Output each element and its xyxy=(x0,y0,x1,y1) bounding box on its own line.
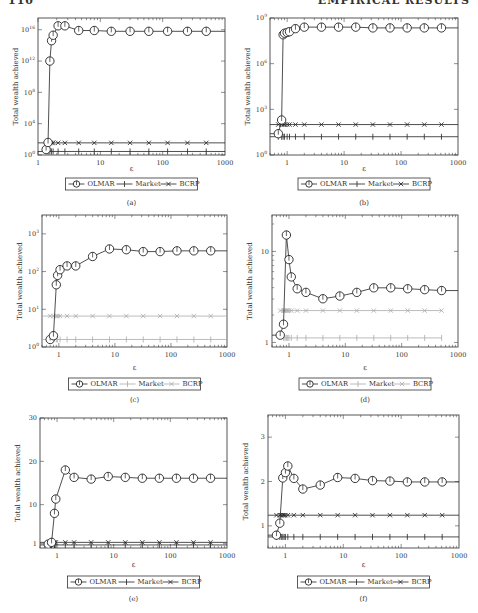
svg-text:2: 2 xyxy=(261,478,265,486)
x-tick-label: 1 xyxy=(55,552,59,560)
x-axis-label: ε xyxy=(362,561,366,569)
series-bcrp xyxy=(42,314,227,318)
y-tick-label: 2 xyxy=(261,478,265,486)
x-tick-label: 1000 xyxy=(219,351,236,359)
series-olmar xyxy=(270,23,458,138)
svg-text:109: 109 xyxy=(256,13,267,22)
x-tick-label: 1000 xyxy=(217,159,234,167)
panel-caption: (d) xyxy=(360,396,370,404)
plot-frame xyxy=(40,418,227,548)
x-axis-label: ε xyxy=(130,165,134,173)
legend: OLMARMarketBCRP xyxy=(68,576,202,588)
series-bcrp xyxy=(40,540,227,544)
y-tick-label: 1012 xyxy=(21,56,35,65)
y-axis-label: Total wealth achieved xyxy=(244,47,252,125)
series-olmar xyxy=(42,22,225,154)
svg-text:100: 100 xyxy=(28,342,39,351)
plot-area xyxy=(268,462,459,540)
svg-text:Market: Market xyxy=(368,180,393,188)
y-tick-label: 102 xyxy=(28,267,39,276)
x-tick-label: 10 xyxy=(339,552,347,560)
x-axis: 1101001000 xyxy=(40,418,235,560)
chart-panel-d: 1101001000110Total wealth achievedεOLMAR… xyxy=(246,215,466,404)
x-tick-label: 1 xyxy=(36,159,40,167)
legend: OLMARMarketBCRP xyxy=(298,178,432,190)
chart-panel-a: 110100100010010410810121016Total wealth … xyxy=(12,18,233,207)
svg-text:100: 100 xyxy=(24,150,35,159)
legend-item-olmar: OLMAR xyxy=(69,180,116,188)
series-market xyxy=(42,336,227,342)
svg-text:106: 106 xyxy=(256,59,267,68)
series-market xyxy=(284,335,442,341)
svg-text:30: 30 xyxy=(29,414,37,422)
x-axis: 1101001000 xyxy=(270,18,466,167)
svg-text:Market: Market xyxy=(368,578,393,586)
svg-text:OLMAR: OLMAR xyxy=(320,180,348,188)
x-tick-label: 1 xyxy=(57,351,61,359)
svg-text:Market: Market xyxy=(139,380,164,388)
svg-text:Market: Market xyxy=(138,578,163,586)
svg-text:OLMAR: OLMAR xyxy=(90,578,118,586)
series-bcrp xyxy=(268,513,459,517)
y-tick-label: 100 xyxy=(28,342,39,351)
series-market xyxy=(270,134,458,140)
chart-panel-c: 1101001000100101102103Total wealth achie… xyxy=(16,215,235,404)
svg-text:1: 1 xyxy=(265,339,269,347)
plot-area xyxy=(272,231,458,341)
chart-panel-f: 1101001000123Total wealth achievedεOLMAR… xyxy=(242,415,467,603)
series-market xyxy=(38,148,225,154)
panel-caption: (b) xyxy=(359,199,369,207)
y-axis-label: Total wealth achieved xyxy=(16,242,24,320)
x-tick-label: 10 xyxy=(341,351,349,359)
series-olmar xyxy=(44,466,227,549)
legend: OLMARMarketBCRP xyxy=(69,378,203,390)
y-tick-label: 1 xyxy=(265,339,269,347)
svg-text:BCRP: BCRP xyxy=(413,380,433,388)
y-tick-label: 20 xyxy=(29,458,37,466)
y-tick-label: 1 xyxy=(261,522,265,530)
svg-text:10: 10 xyxy=(261,248,269,256)
y-tick-label: 1 xyxy=(33,540,37,548)
plot-area xyxy=(38,22,225,155)
panel-caption: (e) xyxy=(129,595,139,603)
x-axis-label: ε xyxy=(363,364,367,372)
svg-text:BCRP: BCRP xyxy=(183,380,203,388)
y-tick-label: 10 xyxy=(29,501,37,509)
series-bcrp xyxy=(278,308,444,312)
svg-text:OLMAR: OLMAR xyxy=(91,380,119,388)
x-axis-label: ε xyxy=(133,364,137,372)
x-tick-label: 1000 xyxy=(219,552,236,560)
svg-text:20: 20 xyxy=(29,458,37,466)
x-tick-label: 1000 xyxy=(451,552,468,560)
svg-text:1012: 1012 xyxy=(21,56,35,65)
y-axis-label: Total wealth achieved xyxy=(246,242,254,320)
y-axis-label: Total wealth achieved xyxy=(242,442,250,520)
legend-item-olmar: OLMAR xyxy=(71,578,118,586)
svg-text:10: 10 xyxy=(29,501,37,509)
plot-frame xyxy=(272,215,458,347)
y-tick-label: 101 xyxy=(28,305,39,314)
x-tick-label: 100 xyxy=(165,351,177,359)
y-tick-label: 100 xyxy=(24,150,35,159)
x-axis: 1101001000 xyxy=(268,415,467,560)
x-tick-label: 1 xyxy=(283,552,287,560)
y-tick-label: 109 xyxy=(256,13,267,22)
svg-text:3: 3 xyxy=(261,433,265,441)
svg-text:101: 101 xyxy=(28,305,39,314)
x-tick-label: 10 xyxy=(96,159,104,167)
svg-text:OLMAR: OLMAR xyxy=(321,380,349,388)
legend: OLMARMarketBCRP xyxy=(299,378,433,390)
plot-frame xyxy=(42,215,227,347)
series-olmar xyxy=(46,245,227,344)
y-tick-label: 1016 xyxy=(21,25,35,34)
y-tick-label: 100 xyxy=(256,150,267,159)
svg-text:BCRP: BCRP xyxy=(412,578,432,586)
y-tick-label: 3 xyxy=(261,433,265,441)
legend-item-olmar: OLMAR xyxy=(301,180,348,188)
series-market xyxy=(268,534,459,540)
x-tick-label: 1000 xyxy=(450,351,467,359)
panel-caption: (c) xyxy=(130,396,139,404)
plot-area xyxy=(42,245,227,344)
svg-text:108: 108 xyxy=(24,88,35,97)
x-tick-label: 100 xyxy=(164,552,176,560)
